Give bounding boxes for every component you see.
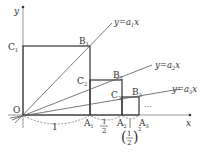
label-B2: B2 <box>113 70 123 81</box>
label-B3: B3 <box>132 87 142 98</box>
length-half-num: 1 <box>102 118 106 126</box>
line-a1 <box>15 23 112 123</box>
y-axis-label: y <box>13 6 20 16</box>
length-third-exp: 2 <box>138 126 141 132</box>
square-3 <box>122 97 139 115</box>
label-A2: A2 <box>116 118 127 129</box>
label-C1: C1 <box>8 42 18 53</box>
label-C3: C3 <box>111 90 121 101</box>
x-axis-label: x <box>186 118 191 128</box>
label-C2: C2 <box>77 76 87 87</box>
length-half-den: 2 <box>102 127 106 135</box>
ellipsis: ··· <box>144 102 152 111</box>
label-A1: A1 <box>83 118 94 129</box>
line-a3-label: y=a3x <box>171 84 197 95</box>
diagram-canvas: y x O y=a1x y=a2x y=a3x C1 B1 C2 B2 C3 B… <box>0 0 212 153</box>
line-a3 <box>10 89 180 118</box>
length-1: 1 <box>52 122 58 132</box>
origin-label: O <box>13 105 20 115</box>
y-axis-arrow <box>22 6 25 9</box>
arc-3 <box>123 116 138 119</box>
label-B1: B1 <box>79 36 89 47</box>
length-third-num: 1 <box>127 130 131 138</box>
line-a1-label: y=a1x <box>113 17 139 28</box>
length-third-den: 2 <box>127 139 131 147</box>
diagram: y x O y=a1x y=a2x y=a3x C1 B1 C2 B2 C3 B… <box>0 0 212 153</box>
x-axis-arrow <box>189 114 192 117</box>
line-a2-label: y=a2x <box>154 60 180 71</box>
line-a2 <box>12 65 152 120</box>
paren-left: ( <box>121 129 126 145</box>
